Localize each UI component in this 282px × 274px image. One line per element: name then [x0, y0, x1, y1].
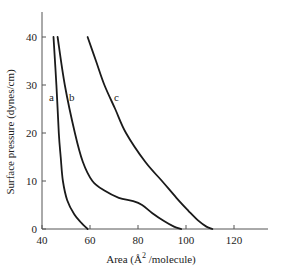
- x-tick-100: 100: [178, 234, 195, 246]
- y-tick-30: 30: [26, 79, 38, 91]
- y-axis-title: Surface pressure (dynes/cm): [4, 69, 17, 195]
- x-tick-labels: 40 60 80 100 120: [37, 234, 243, 246]
- curve-label-a: a: [49, 91, 54, 103]
- curve-a: [54, 37, 88, 229]
- y-ticks: [42, 37, 46, 229]
- curve-c: [88, 37, 213, 229]
- pressure-area-chart: 0 10 20 30 40 40 60 80 100 120 Area (Å2 …: [0, 0, 282, 274]
- x-axis-title: Area (Å2 /molecule): [106, 251, 196, 266]
- curve-label-b: b: [69, 91, 75, 103]
- y-tick-labels: 0 10 20 30 40: [26, 31, 38, 235]
- x-tick-60: 60: [85, 234, 97, 246]
- y-tick-10: 10: [26, 175, 38, 187]
- y-tick-20: 20: [26, 127, 38, 139]
- x-tick-80: 80: [133, 234, 145, 246]
- y-tick-40: 40: [26, 31, 38, 43]
- curves: [54, 37, 213, 229]
- curve-b: [58, 37, 182, 229]
- curve-label-c: c: [114, 91, 119, 103]
- x-tick-40: 40: [37, 234, 49, 246]
- x-tick-120: 120: [226, 234, 243, 246]
